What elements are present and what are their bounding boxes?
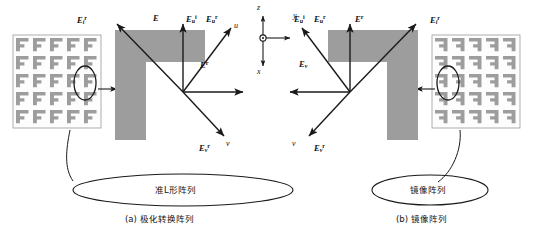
array-box-a — [13, 35, 117, 128]
ellipse-label-b: 镜像阵列 — [410, 186, 446, 195]
axis-label-z: z — [257, 4, 260, 12]
field-label-a-E: E — [153, 14, 159, 23]
axis-label-a-v: v — [226, 140, 230, 148]
field-label-b-Eu-r: Eur — [314, 14, 326, 24]
panel-b-group — [290, 24, 520, 205]
figure-canvas — [0, 0, 533, 236]
field-label-a-Ei: Eir — [77, 15, 87, 25]
field-label-b-Ev-left: Ev — [299, 60, 307, 69]
axis-label-b-v: v — [292, 140, 296, 148]
caption-a: (a) 极化转换阵列 — [125, 215, 194, 224]
field-label-a-Eu-r: Eur — [206, 14, 218, 24]
axis-label-x: x — [257, 68, 261, 76]
global-axis-triad — [260, 16, 290, 66]
large-patch-b — [328, 30, 418, 140]
axis-origin-center-icon — [262, 37, 264, 39]
field-label-b-E: Er — [355, 14, 363, 24]
field-label-a-Ev: Evr — [199, 143, 210, 153]
leader-line-a — [67, 130, 73, 181]
caption-b: (b) 镜像阵列 — [396, 215, 447, 224]
field-label-b-Ev: Evr — [314, 143, 325, 153]
large-patch-a — [115, 30, 205, 140]
ellipse-label-a: 准L形阵列 — [155, 186, 196, 195]
field-label-b-Eu-i: Eui — [294, 14, 305, 24]
axis-label-a-u: u — [234, 22, 238, 30]
array-box-b — [416, 35, 520, 128]
leader-line-b — [438, 130, 460, 182]
field-label-a-Er: Er — [200, 60, 208, 70]
field-label-b-Ei: Eir — [430, 15, 440, 25]
field-label-a-Eu-i: Eui — [186, 14, 197, 24]
panel-a-group — [13, 24, 293, 206]
